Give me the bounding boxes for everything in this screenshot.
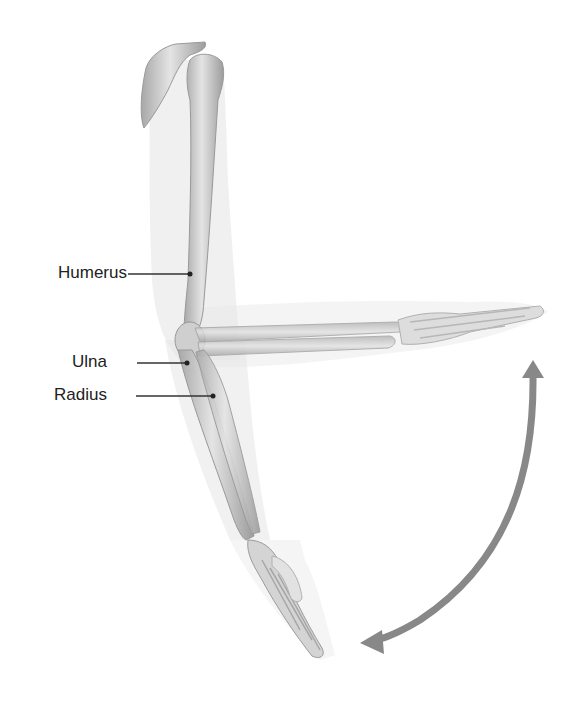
arrow-head-up-icon bbox=[522, 360, 544, 378]
label-radius: Radius bbox=[54, 385, 107, 405]
label-ulna: Ulna bbox=[72, 352, 107, 372]
anatomy-diagram: Humerus Ulna Radius bbox=[0, 0, 583, 718]
label-humerus: Humerus bbox=[58, 263, 127, 283]
arrow-head-left-icon bbox=[360, 630, 384, 654]
range-of-motion-arrow[interactable] bbox=[360, 360, 544, 654]
